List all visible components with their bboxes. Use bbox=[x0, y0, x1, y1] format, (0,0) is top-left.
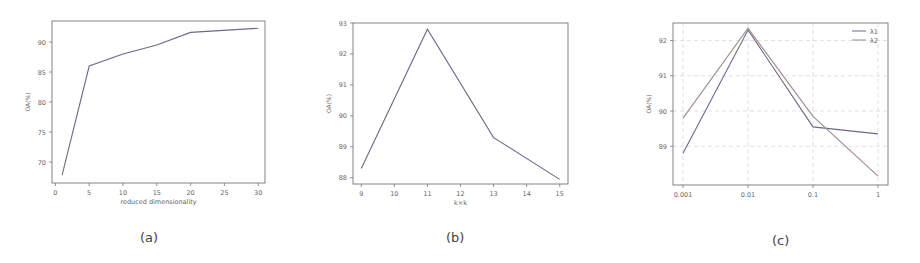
y-tick-label: 90 bbox=[38, 39, 46, 47]
x-tick-label: 11 bbox=[423, 190, 431, 198]
x-tick-label: 20 bbox=[186, 189, 194, 197]
caption-a: (a) bbox=[140, 230, 158, 245]
chart-c-plot: 899091920.0010.010.11OA(%)λ1λ2 bbox=[610, 0, 920, 215]
y-tick-label: 89 bbox=[339, 143, 347, 151]
chart-c: 899091920.0010.010.11OA(%)λ1λ2 bbox=[610, 0, 920, 215]
x-tick-label: 0.01 bbox=[741, 191, 755, 199]
y-axis-label: OA(%) bbox=[645, 94, 652, 113]
x-tick-label: 13 bbox=[489, 190, 497, 198]
legend-label: λ1 bbox=[870, 28, 878, 36]
x-tick-label: 5 bbox=[87, 189, 91, 197]
x-tick-label: 9 bbox=[359, 190, 363, 198]
y-tick-label: 75 bbox=[38, 129, 46, 137]
plot-frame bbox=[52, 21, 265, 183]
y-tick-label: 89 bbox=[659, 143, 667, 151]
y-tick-label: 90 bbox=[659, 108, 667, 116]
y-tick-label: 91 bbox=[659, 72, 667, 80]
y-axis-label: OA(%) bbox=[325, 94, 332, 113]
y-tick-label: 93 bbox=[339, 20, 347, 28]
x-tick-label: 1 bbox=[876, 191, 880, 199]
plot-frame bbox=[673, 23, 888, 185]
x-axis-label: k×k bbox=[454, 199, 467, 207]
x-tick-label: 15 bbox=[153, 189, 161, 197]
series-line bbox=[683, 30, 878, 153]
y-tick-label: 80 bbox=[38, 99, 46, 107]
y-tick-label: 85 bbox=[38, 69, 46, 77]
y-tick-label: 91 bbox=[339, 81, 347, 89]
legend-label: λ2 bbox=[870, 37, 878, 45]
y-tick-label: 70 bbox=[38, 159, 46, 167]
caption-c: (c) bbox=[772, 233, 789, 248]
y-axis-label: OA(%) bbox=[24, 92, 31, 111]
x-tick-label: 10 bbox=[119, 189, 127, 197]
chart-a: 7075808590051015202530reduced dimensiona… bbox=[0, 0, 300, 215]
x-tick-label: 30 bbox=[254, 189, 262, 197]
plot-frame bbox=[353, 23, 568, 184]
x-tick-label: 0.1 bbox=[808, 191, 818, 199]
x-tick-label: 10 bbox=[390, 190, 398, 198]
x-tick-label: 0 bbox=[53, 189, 57, 197]
series-line bbox=[683, 28, 878, 176]
chart-a-plot: 7075808590051015202530reduced dimensiona… bbox=[0, 0, 300, 215]
x-tick-label: 14 bbox=[523, 190, 531, 198]
caption-b: (b) bbox=[446, 230, 464, 245]
x-tick-label: 15 bbox=[556, 190, 564, 198]
y-tick-label: 92 bbox=[659, 37, 667, 45]
x-tick-label: 12 bbox=[456, 190, 464, 198]
series-line bbox=[361, 29, 559, 179]
x-tick-label: 25 bbox=[220, 189, 228, 197]
y-tick-label: 88 bbox=[339, 174, 347, 182]
y-tick-label: 92 bbox=[339, 50, 347, 58]
y-tick-label: 90 bbox=[339, 112, 347, 120]
chart-b: 8889909192939101112131415k×kOA(%) bbox=[300, 0, 610, 215]
x-axis-label: reduced dimensionality bbox=[120, 198, 196, 206]
x-tick-label: 0.001 bbox=[674, 191, 693, 199]
series-line bbox=[62, 28, 258, 175]
chart-b-plot: 8889909192939101112131415k×kOA(%) bbox=[300, 0, 610, 215]
